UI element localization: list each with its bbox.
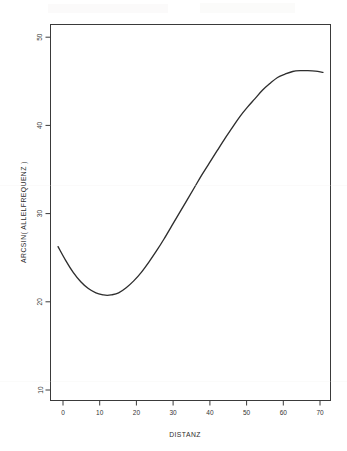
x-tick-label: 0 <box>61 409 65 416</box>
x-tick-label: 70 <box>316 409 324 416</box>
chart-figure: 50 40 30 20 10 0 10 20 30 40 50 60 70 <box>0 0 347 451</box>
x-tick-label: 20 <box>133 409 141 416</box>
figure-background <box>0 0 347 451</box>
plot-canvas: 50 40 30 20 10 0 10 20 30 40 50 60 70 <box>0 0 347 451</box>
x-tick-label: 50 <box>243 409 251 416</box>
y-tick-label: 50 <box>37 33 44 41</box>
x-axis-title: DISTANZ <box>169 431 201 438</box>
x-tick-label: 30 <box>169 409 177 416</box>
x-tick-label: 60 <box>280 409 288 416</box>
x-tick-label: 10 <box>96 409 104 416</box>
y-axis-title: ARCSIN( ALLELFREQUENZ ) <box>20 161 28 263</box>
y-tick-label: 20 <box>37 298 44 306</box>
x-tick-label: 40 <box>206 409 214 416</box>
y-tick-label: 30 <box>37 210 44 218</box>
y-tick-label: 40 <box>37 121 44 129</box>
y-tick-label: 10 <box>37 386 44 394</box>
